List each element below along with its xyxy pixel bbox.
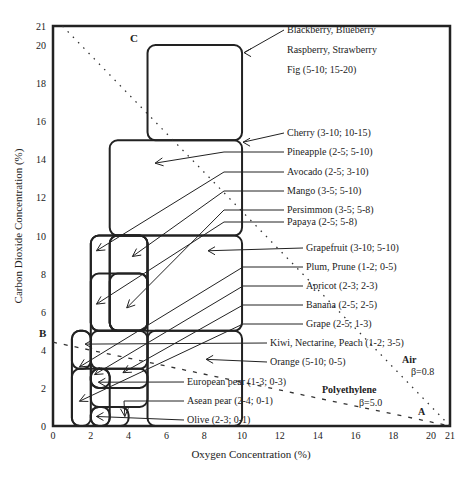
polyethylene-beta-label: β=5.0 [359, 397, 382, 408]
x-tick-label: 8 [202, 430, 207, 441]
leader-line [132, 191, 284, 256]
x-tick-label: 2 [88, 430, 93, 441]
point-label-a: A [418, 406, 426, 417]
region-label: Grapefruit (3-10; 5-10) [306, 242, 399, 254]
x-tick-label: 14 [313, 430, 323, 441]
region-label: Apricot (2-3; 2-3) [306, 280, 378, 292]
leader-line [85, 343, 267, 344]
x-tick-label: 0 [51, 430, 56, 441]
y-tick-label: 6 [41, 307, 46, 318]
region-label: Papaya (2-5; 5-8) [287, 216, 357, 228]
region-label: Olive (2-3; 0-1) [187, 414, 250, 426]
region-label: Fig (5-10; 15-20) [287, 64, 356, 76]
region-box [110, 140, 242, 235]
y-tick-label: 20 [36, 40, 46, 51]
reference-line-air [62, 26, 450, 426]
regions [72, 45, 242, 426]
y-tick-label: 12 [36, 192, 46, 203]
region-label: Grape (2-5; 1-3) [306, 318, 372, 330]
leader-line [127, 210, 284, 308]
y-tick-label: 4 [41, 345, 46, 356]
region-label: Avocado (2-5; 3-10) [287, 166, 368, 178]
plot-frame [53, 26, 450, 426]
polyethylene-label: Polyethylene [322, 384, 377, 395]
region-label: Blackberry, Blueberry [287, 24, 376, 35]
region-label: Orange (5-10; 0-5) [270, 356, 346, 368]
x-tick-label: 18 [388, 430, 398, 441]
leader-line [208, 248, 303, 251]
leader-line [206, 359, 267, 362]
leader-line [96, 222, 284, 304]
region-box [91, 236, 148, 331]
arrowhead-icon [244, 49, 251, 57]
x-tick-label: 12 [275, 430, 285, 441]
leader-line [124, 401, 184, 416]
reference-lines [53, 26, 450, 426]
y-tick-label: 14 [36, 154, 46, 165]
region-box [148, 45, 243, 140]
x-tick-label: 4 [126, 430, 131, 441]
y-tick-label: 8 [41, 269, 46, 280]
leader-line [96, 172, 284, 251]
region-label: Banana (2-5; 2-5) [306, 299, 377, 311]
region-label: Kiwi, Nectarine, Peach (1-2; 3-5) [270, 337, 404, 349]
region-label: Asean pear (2-4; 0-1) [187, 395, 273, 407]
x-tick-label: 21 [445, 430, 455, 441]
chart: 02468101214161820210246810121416182021 B… [0, 0, 475, 482]
plot-border [53, 26, 450, 426]
y-tick-label: 16 [36, 116, 46, 127]
y-tick-label: 18 [36, 78, 46, 89]
y-axis-label: Carbon Dioxide Concentration (%) [12, 148, 25, 303]
region-label: Plum, Prune (1-2; 0-5) [306, 261, 397, 273]
x-tick-label: 16 [350, 430, 360, 441]
leader-line [155, 152, 284, 163]
x-tick-label: 20 [426, 430, 436, 441]
region-label: Raspberry, Strawberry [287, 44, 377, 55]
y-tick-label: 10 [36, 231, 46, 242]
y-tick-label: 21 [36, 21, 46, 32]
region-label: Mango (3-5; 5-10) [287, 185, 361, 197]
point-label-b: B [39, 327, 47, 339]
y-tick-label: 0 [41, 421, 46, 432]
region-label: European pear (1-3; 0-3) [187, 376, 286, 388]
point-label-c: C [130, 32, 138, 44]
air-label: Air [402, 354, 417, 365]
leader-line [243, 133, 284, 142]
x-tick-label: 6 [164, 430, 169, 441]
region-label: Pineapple (2-5; 5-10) [287, 146, 373, 158]
air-beta-label: β=0.8 [411, 366, 434, 377]
region-label: Persimmon (3-5; 5-8) [287, 204, 374, 216]
x-tick-label: 10 [237, 430, 247, 441]
region-label: Cherry (3-10; 10-15) [287, 127, 371, 139]
region-box [72, 331, 91, 426]
x-axis-label: Oxygen Concentration (%) [191, 448, 310, 461]
y-tick-label: 2 [41, 383, 46, 394]
